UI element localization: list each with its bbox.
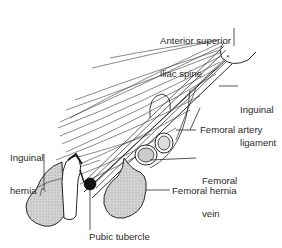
label-inguinal-hernia-line2: hernia (10, 185, 44, 196)
label-femoral-vein: Femoral vein (202, 153, 237, 241)
label-femoral-artery: Femoral artery (200, 124, 262, 135)
hernia-anatomy-diagram: Anterior superior iliac spine Inguinal l… (0, 0, 282, 248)
spermatic-cord (62, 156, 81, 220)
pubic-tubercle-dot (84, 178, 96, 190)
label-inguinal-ligament-line2: ligament (240, 137, 276, 148)
label-inguinal-ligament-line1: Inguinal (240, 104, 276, 115)
label-asis-line2: iliac spine (160, 68, 231, 79)
femoral-vein-vessel (135, 145, 157, 165)
label-femoral-hernia: Femoral hernia (172, 185, 237, 196)
label-asis: Anterior superior iliac spine (160, 13, 231, 101)
femoral-artery-vessel (155, 133, 173, 153)
label-inguinal-hernia: Inguinal hernia (10, 130, 44, 218)
label-pubic-tubercle: Pubic tubercle (89, 231, 150, 242)
label-asis-line1: Anterior superior (160, 35, 231, 46)
label-femoral-vein-line2: vein (202, 208, 237, 219)
label-inguinal-hernia-line1: Inguinal (10, 152, 44, 163)
